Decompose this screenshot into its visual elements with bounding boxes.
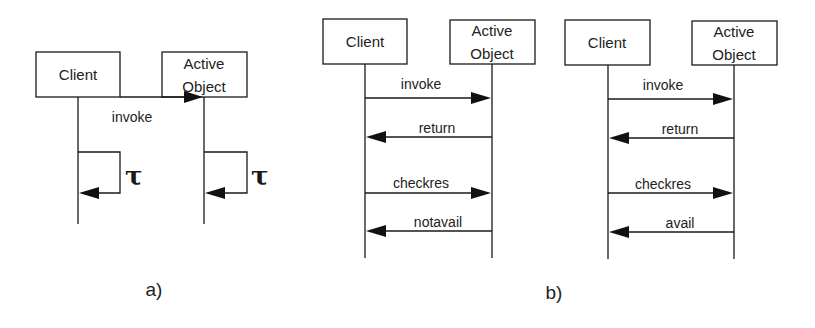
client-self-loop [78, 152, 120, 193]
message-invoke-label: invoke [112, 109, 153, 125]
participant-active-object-label-line2: Object [182, 78, 226, 95]
participant-client-label: Client [346, 33, 385, 50]
participant-active-object-label-line1: Active [472, 22, 513, 39]
arrowhead-right-icon [471, 92, 491, 104]
arrowhead-left-icon [609, 132, 629, 144]
arrowhead-right-icon [471, 187, 491, 199]
caption-a: a) [146, 279, 163, 300]
message-invoke-label: invoke [643, 77, 684, 93]
active-object-self-loop [204, 152, 247, 193]
arrowhead-right-icon [713, 93, 733, 105]
message-notavail-label: notavail [414, 214, 462, 230]
participant-active-object-label-line1: Active [714, 23, 755, 40]
diagram-b-right: Client Active Object invoke return check… [565, 20, 777, 259]
participant-active-object-label-line1: Active [184, 55, 225, 72]
message-checkres-label: checkres [635, 176, 691, 192]
message-checkres-label: checkres [393, 175, 449, 191]
arrowhead-left-icon [79, 187, 99, 199]
message-return-label: return [662, 121, 699, 137]
arrowhead-left-icon [366, 225, 386, 237]
caption-b: b) [546, 282, 563, 303]
arrowhead-left-icon [205, 187, 225, 199]
participant-active-object-label-line2: Object [712, 46, 756, 63]
participant-client-label: Client [588, 34, 627, 51]
message-return-label: return [419, 120, 456, 136]
diagram-a: Client Active Object invoke τ τ a) [36, 52, 269, 300]
diagram-b-left: Client Active Object invoke return check… [323, 19, 535, 258]
arrowhead-left-icon [609, 226, 629, 238]
arrowhead-right-icon [713, 187, 733, 199]
tau-label-active-object: τ [251, 161, 269, 191]
tau-label-client: τ [125, 161, 143, 191]
participant-client-label: Client [59, 66, 98, 83]
sequence-diagrams: Client Active Object invoke τ τ a) Clien… [0, 0, 815, 328]
message-invoke-label: invoke [401, 76, 442, 92]
participant-active-object-label-line2: Object [470, 45, 514, 62]
arrowhead-left-icon [366, 131, 386, 143]
message-avail-label: avail [666, 215, 695, 231]
